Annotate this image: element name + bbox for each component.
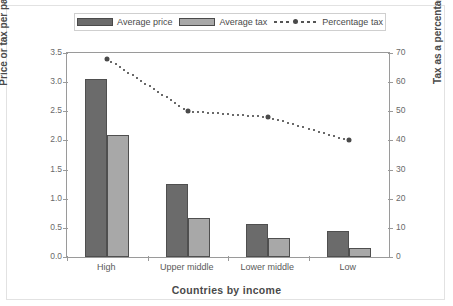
line-dash-segment [207, 112, 209, 114]
legend-label-average-price: Average price [117, 17, 172, 27]
y-axis-left-tick [63, 170, 68, 171]
line-dash-segment [232, 114, 234, 116]
y-axis-right-title: Tax as a percentage of price [432, 0, 443, 92]
y-axis-left-tick [63, 53, 68, 54]
line-dash-segment [257, 115, 259, 117]
bar-average-tax-upper-middle [188, 218, 210, 257]
legend-swatch-icon-average-price [77, 18, 113, 26]
y-axis-right-tick-label: 70 [396, 47, 418, 57]
y-axis-left-tick [63, 82, 68, 83]
bar-average-tax-lower-middle [268, 238, 290, 257]
line-dash-segment [323, 132, 325, 134]
bar-average-tax-low [349, 248, 371, 257]
line-dash-segment [115, 63, 117, 65]
line-dash-segment [132, 74, 134, 76]
line-dash-segment [178, 105, 180, 107]
y-axis-right-tick-label: 50 [396, 105, 418, 115]
y-axis-left-tick-label: 3.0 [32, 76, 62, 86]
line-dash-segment [183, 108, 185, 110]
line-dash-segment [149, 85, 151, 87]
y-axis-left-tick [63, 140, 68, 141]
line-dash-segment [318, 131, 320, 133]
y-axis-left-title: Price or tax per pack ($US) [0, 0, 9, 92]
line-dash-segment [192, 111, 194, 113]
line-dash-segment [338, 137, 340, 139]
line-dash-segment [302, 126, 304, 128]
line-dash-segment [272, 118, 274, 120]
line-dash-segment [343, 138, 345, 140]
x-axis-category-label-low: Low [298, 262, 398, 272]
bar-average-price-high [85, 79, 107, 257]
y-axis-left-tick [63, 111, 68, 112]
legend-item-average-price: Average price [77, 17, 172, 27]
line-dash-segment [252, 115, 254, 117]
line-dash-segment [153, 88, 155, 90]
line-marker-high [105, 56, 110, 61]
line-dash-segment [127, 72, 129, 74]
line-dash-segment [161, 94, 163, 96]
legend-label-average-tax: Average tax [219, 17, 267, 27]
y-axis-left-tick [63, 257, 68, 258]
plot-area [66, 52, 390, 258]
line-dash-segment [170, 99, 172, 101]
x-axis-tick [148, 256, 149, 261]
line-dash-segment [136, 77, 138, 79]
y-axis-left-tick [63, 199, 68, 200]
y-axis-right-tick [388, 257, 393, 258]
line-dash-segment [333, 135, 335, 137]
line-marker-lower-middle [266, 115, 271, 120]
y-axis-left-tick [63, 228, 68, 229]
line-marker-low [346, 138, 351, 143]
y-axis-left-tick-label: 0.5 [32, 222, 62, 232]
line-dash-segment [287, 122, 289, 124]
line-dash-segment [197, 111, 199, 113]
line-dash-segment [123, 69, 125, 71]
y-axis-right-tick-label: 60 [396, 76, 418, 86]
y-axis-right-tick-label: 0 [396, 251, 418, 261]
bar-average-tax-high [107, 135, 129, 257]
y-axis-left-tick-label: 2.5 [32, 105, 62, 115]
y-axis-right-tick [388, 53, 393, 54]
line-dash-segment [166, 96, 168, 98]
legend-item-average-tax: Average tax [179, 17, 267, 27]
y-axis-left-tick-label: 0.0 [32, 251, 62, 261]
x-axis-tick [228, 256, 229, 261]
y-axis-left-tick-label: 1.5 [32, 164, 62, 174]
line-dash-segment [212, 112, 214, 114]
y-axis-right-tick [388, 140, 393, 141]
y-axis-right-tick [388, 82, 393, 83]
bar-average-price-low [327, 231, 349, 257]
line-dash-segment [140, 80, 142, 82]
line-dash-segment [308, 128, 310, 130]
line-dash-segment [242, 114, 244, 116]
line-dash-segment [157, 91, 159, 93]
legend-item-percentage-tax: Percentage tax [274, 17, 383, 27]
y-axis-right-tick-label: 10 [396, 222, 418, 232]
x-axis-tick [309, 256, 310, 261]
line-dash-segment [110, 61, 112, 63]
chart-legend: Average price Average tax Percentage tax [74, 13, 386, 31]
line-dash-segment [282, 120, 284, 122]
line-dash-segment [174, 102, 176, 104]
legend-label-percentage-tax: Percentage tax [322, 17, 383, 27]
legend-dotted-line-icon-percentage-tax [274, 18, 318, 26]
line-dash-segment [119, 66, 121, 68]
y-axis-left-tick-label: 2.0 [32, 134, 62, 144]
x-axis-title: Countries by income [0, 284, 453, 296]
y-axis-left-tick-label: 1.0 [32, 193, 62, 203]
y-axis-right-tick-label: 40 [396, 134, 418, 144]
y-axis-right-tick [388, 199, 393, 200]
line-dash-segment [222, 113, 224, 115]
line-dash-segment [297, 125, 299, 127]
bar-average-price-lower-middle [246, 224, 268, 257]
y-axis-right-tick-label: 30 [396, 164, 418, 174]
line-dash-segment [328, 134, 330, 136]
line-dash-segment [144, 83, 146, 85]
y-axis-right-tick [388, 111, 393, 112]
line-dash-segment [217, 112, 219, 114]
legend-swatch-icon-average-tax [179, 18, 215, 26]
y-axis-left-tick-label: 3.5 [32, 47, 62, 57]
line-dash-segment [277, 119, 279, 121]
line-dash-segment [227, 113, 229, 115]
line-dash-segment [262, 116, 264, 118]
